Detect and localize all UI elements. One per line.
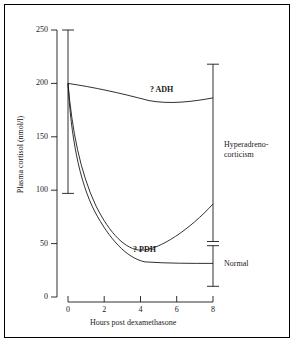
annotation-pdh-label: ? PDH	[133, 245, 156, 254]
y-tick-label-200: 200	[22, 78, 48, 87]
x-tick-label-2: 2	[96, 305, 112, 314]
side-label-hyperadrenocorticism-line1: Hyperadreno-	[224, 140, 268, 150]
y-tick-label-0: 0	[22, 292, 48, 301]
y-tick-label-50: 50	[22, 239, 48, 248]
x-tick-label-0: 0	[60, 305, 76, 314]
x-axis-title: Hours post dexamethasone	[90, 318, 176, 327]
y-tick-label-150: 150	[22, 132, 48, 141]
y-tick-label-100: 100	[22, 185, 48, 194]
x-tick-label-6: 6	[169, 305, 185, 314]
curve-adh	[68, 83, 213, 102]
x-tick-label-4: 4	[133, 305, 149, 314]
annotation-adh-label: ? ADH	[150, 85, 173, 94]
x-tick-label-8: 8	[205, 305, 221, 314]
curve-normal	[68, 83, 213, 263]
y-tick-label-250: 250	[22, 25, 48, 34]
side-label-normal: Normal	[224, 259, 248, 269]
curve-pdh	[68, 83, 213, 250]
side-label-hyperadrenocorticism-line2: corticism	[224, 150, 254, 160]
